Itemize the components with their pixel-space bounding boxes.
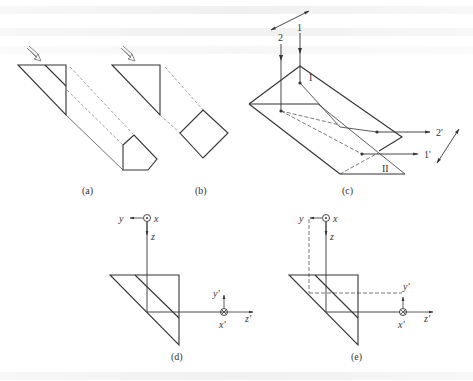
axis-label-x-prime: x' (397, 319, 405, 330)
axis-label-x: x (153, 213, 159, 224)
ray-path-dashed (281, 111, 340, 125)
panel-b (112, 46, 228, 158)
axis-label-y-prime: y' (402, 281, 410, 292)
panel-e (289, 215, 433, 346)
dashed-projection (165, 67, 203, 110)
face-label-II: II (382, 163, 389, 174)
axis-label-z-prime: z' (423, 313, 431, 324)
prism-triangle (112, 65, 160, 115)
panel-d (110, 215, 253, 346)
prism-diagram: (a) (b) (0, 0, 473, 381)
caption-a: (a) (82, 185, 93, 197)
caption-e: (e) (351, 351, 362, 363)
axis-label-z: z (329, 231, 334, 242)
ray-label-2: 2 (278, 32, 283, 43)
pentagon-section (123, 135, 157, 170)
ray-label-1: 1 (297, 22, 302, 33)
axis-label-x: x (332, 213, 338, 224)
caption-b: (b) (195, 185, 207, 197)
prism-edge (318, 104, 405, 174)
axis-label-y: y (118, 213, 124, 224)
axis-label-x-prime: x' (218, 319, 226, 330)
faint-background-text-line (0, 372, 473, 380)
prism-edge (66, 115, 123, 170)
dashed-projection (67, 90, 123, 145)
polarization-arrow (271, 11, 309, 30)
dashed-projection (160, 115, 180, 133)
ray-label-2-prime: 2' (436, 127, 443, 138)
ray-path (340, 127, 377, 132)
axis-label-y: y (298, 213, 304, 224)
ray-path-dashed (281, 111, 362, 154)
caption-c: (c) (342, 185, 353, 197)
prism-triangle (110, 275, 179, 345)
axis-label-y-prime: y' (212, 288, 220, 299)
prism-triangle (289, 275, 358, 345)
face-label-I: I (309, 72, 312, 83)
hollow-arrow-icon (27, 46, 41, 61)
axis-label-z-prime: z' (244, 313, 252, 324)
hollow-arrow-icon (121, 46, 135, 61)
prism-triangle (18, 65, 66, 115)
square-section (180, 110, 228, 158)
ray-path-dashed (340, 153, 378, 174)
axis-label-z: z (150, 231, 155, 242)
prism-face-I (249, 66, 402, 151)
inner-edge (45, 65, 66, 86)
caption-d: (d) (171, 351, 183, 363)
ray-label-1-prime: 1' (424, 149, 431, 160)
